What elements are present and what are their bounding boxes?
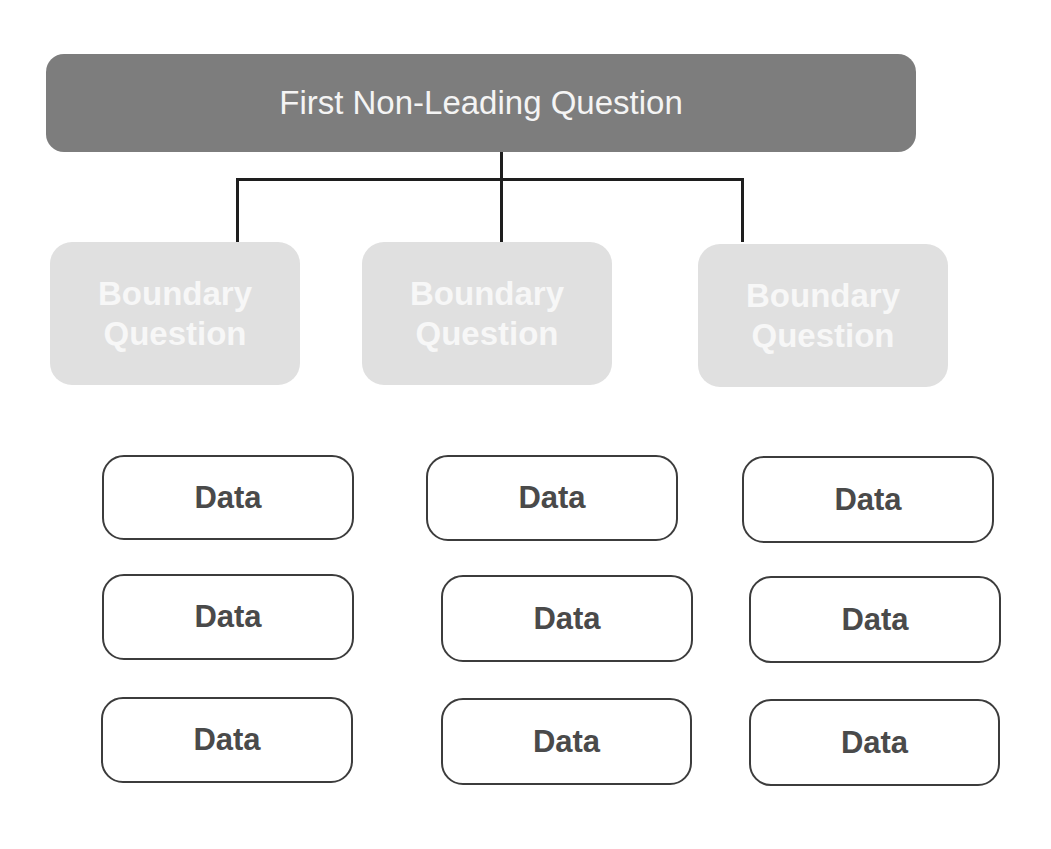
- connector-horizontal-bar: [236, 178, 744, 181]
- data-node-col3-row3: Data: [749, 699, 1000, 786]
- boundary-question-node-1: Boundary Question: [50, 242, 300, 385]
- data-node-col3-row2: Data: [749, 576, 1001, 663]
- connector-root-stem: [500, 152, 503, 180]
- boundary-question-node-3: Boundary Question: [698, 244, 948, 387]
- boundary-question-label: Boundary Question: [402, 274, 572, 354]
- data-label: Data: [518, 480, 585, 516]
- data-node-col1-row1: Data: [102, 455, 354, 540]
- data-label: Data: [193, 722, 260, 758]
- data-node-col2-row1: Data: [426, 455, 678, 541]
- data-node-col1-row2: Data: [102, 574, 354, 660]
- data-node-col2-row2: Data: [441, 575, 693, 662]
- connector-right-drop: [741, 178, 744, 242]
- data-label: Data: [841, 602, 908, 638]
- boundary-question-node-2: Boundary Question: [362, 242, 612, 385]
- data-node-col3-row1: Data: [742, 456, 994, 543]
- data-label: Data: [533, 601, 600, 637]
- data-label: Data: [834, 482, 901, 518]
- root-question-node: First Non-Leading Question: [46, 54, 916, 152]
- data-label: Data: [194, 480, 261, 516]
- data-node-col1-row3: Data: [101, 697, 353, 783]
- boundary-question-label: Boundary Question: [738, 276, 908, 356]
- root-question-label: First Non-Leading Question: [279, 84, 683, 122]
- connector-center-drop: [500, 178, 503, 242]
- boundary-question-label: Boundary Question: [90, 274, 260, 354]
- data-label: Data: [841, 725, 908, 761]
- connector-left-drop: [236, 178, 239, 242]
- data-label: Data: [533, 724, 600, 760]
- data-node-col2-row3: Data: [441, 698, 692, 785]
- data-label: Data: [194, 599, 261, 635]
